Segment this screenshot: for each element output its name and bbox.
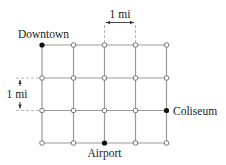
horizontal-scale-label: 1 mi xyxy=(110,8,131,20)
arrowhead-down-icon xyxy=(18,105,21,109)
vertical-scale-label: 1 mi xyxy=(7,88,28,100)
intersection-node xyxy=(133,141,138,146)
intersection-node xyxy=(133,108,138,113)
intersection-node xyxy=(71,108,76,113)
scale-annotations: 1 mi 1 mi xyxy=(7,8,136,111)
street-grid-diagram: 1 mi 1 mi Downtown Coliseum Airport xyxy=(0,0,226,165)
airport-node xyxy=(102,140,107,145)
intersection-node xyxy=(164,43,169,48)
intersection-node xyxy=(164,141,169,146)
downtown-label: Downtown xyxy=(18,28,69,40)
downtown-node xyxy=(39,42,44,47)
intersection-node xyxy=(164,76,169,81)
intersection-node xyxy=(133,76,138,81)
arrowhead-right-icon xyxy=(130,21,134,24)
arrowhead-up-icon xyxy=(18,80,21,84)
intersection-node xyxy=(102,76,107,81)
intersection-node xyxy=(40,141,45,146)
intersection-node xyxy=(102,43,107,48)
coliseum-label: Coliseum xyxy=(173,105,217,117)
intersection-node xyxy=(133,43,138,48)
intersection-node xyxy=(40,108,45,113)
intersection-node xyxy=(71,76,76,81)
landmark-labels: Downtown Coliseum Airport xyxy=(18,28,217,160)
intersection-node xyxy=(71,141,76,146)
intersection-node xyxy=(102,108,107,113)
intersection-node xyxy=(71,43,76,48)
airport-label: Airport xyxy=(88,147,123,160)
grid-lines xyxy=(42,45,167,143)
coliseum-node xyxy=(164,108,169,113)
arrowhead-left-icon xyxy=(106,21,110,24)
intersection-node xyxy=(40,76,45,81)
